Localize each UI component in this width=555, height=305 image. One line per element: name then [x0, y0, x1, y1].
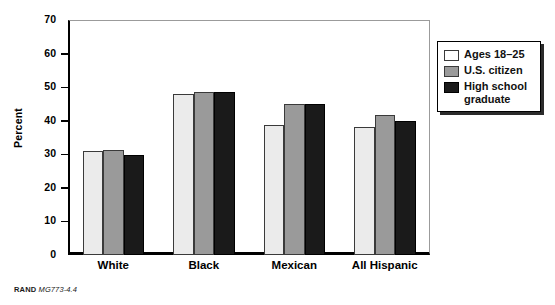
legend-item-label: U.S. citizen [464, 64, 523, 77]
legend-item-label: Ages 18–25 [464, 48, 525, 61]
y-axis-tick-mark [61, 187, 68, 189]
y-axis-tick-label: 40 [44, 114, 56, 126]
bar-group [264, 20, 326, 255]
bar [375, 115, 396, 255]
legend-item: U.S. citizen [444, 64, 533, 77]
bar [124, 155, 145, 255]
y-axis-tick-label: 30 [44, 147, 56, 159]
legend-swatch-icon [444, 66, 459, 77]
bar [354, 127, 375, 255]
bar [264, 125, 285, 255]
y-axis-tick-label: 60 [44, 47, 56, 59]
footer-brand: RAND [14, 285, 36, 294]
bars-layer [68, 20, 430, 255]
y-axis-tick-label: 70 [44, 13, 56, 25]
bar [83, 151, 104, 255]
bar-group [173, 20, 235, 255]
y-axis-title: Percent [12, 108, 28, 148]
y-axis-tick-mark [61, 53, 68, 55]
bar [395, 121, 416, 255]
bar-group [83, 20, 145, 255]
y-axis-tick-mark [61, 120, 68, 122]
bar [284, 104, 305, 255]
legend-swatch-icon [444, 82, 459, 93]
x-axis-label: All Hispanic [325, 259, 445, 271]
legend-swatch-icon [444, 50, 459, 61]
y-axis-tick-label: 20 [44, 181, 56, 193]
legend-item-label: High school graduate [464, 80, 533, 105]
bar-group [354, 20, 416, 255]
bar [305, 104, 326, 255]
bar [103, 150, 124, 255]
bar [173, 94, 194, 255]
legend-item: High school graduate [444, 80, 533, 105]
y-axis-tick-mark [61, 87, 68, 89]
bar [214, 92, 235, 255]
y-axis-tick-label: 50 [44, 80, 56, 92]
legend-item: Ages 18–25 [444, 48, 533, 61]
figure-footer: RAND MG773-4.4 [14, 285, 77, 294]
y-axis-tick-mark [61, 154, 68, 156]
y-axis-tick-label: 10 [44, 214, 56, 226]
y-axis-tick-mark [61, 221, 68, 223]
chart-legend: Ages 18–25U.S. citizenHigh school gradua… [437, 41, 541, 112]
footer-code: MG773-4.4 [39, 285, 77, 294]
bar [194, 92, 215, 255]
